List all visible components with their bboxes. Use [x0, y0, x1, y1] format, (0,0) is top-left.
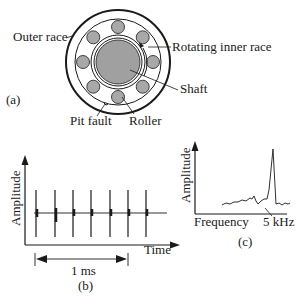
roller: [136, 31, 149, 44]
roller: [147, 56, 160, 69]
roller: [87, 80, 100, 93]
shaft-label: Shaft: [180, 81, 208, 96]
interval-arrow-right-icon: [116, 255, 127, 263]
spectrum-plot: [192, 141, 291, 216]
peak-frequency-label: 5 kHz: [263, 214, 295, 229]
panel-c-tag: (c): [238, 234, 252, 249]
roller: [112, 21, 125, 34]
roller: [87, 31, 100, 44]
panel-c-ylabel: Amplitude: [178, 147, 193, 203]
roller: [136, 80, 149, 93]
panel-b-ylabel: Amplitude: [8, 170, 23, 226]
outer-race-label: Outer race: [13, 29, 68, 44]
roller-label: Roller: [129, 113, 162, 128]
roller: [77, 56, 90, 69]
interval-arrow-left-icon: [36, 255, 47, 263]
panel-c-xlabel: Frequency: [194, 214, 249, 229]
interval-label: 1 ms: [71, 263, 96, 278]
panel-b-tag: (b): [78, 278, 93, 293]
y-axis-arrowhead-icon: [22, 155, 29, 165]
panel-a-tag: (a): [6, 92, 20, 107]
impulse-bursts: [37, 208, 147, 222]
x-axis-arrowhead-icon: [170, 242, 180, 249]
spectrum-line: [222, 149, 290, 205]
pit-fault-label: Pit fault: [70, 113, 112, 128]
panel-b-xlabel: Time: [144, 242, 171, 257]
roller: [112, 91, 125, 104]
bearing-diagram: [66, 10, 170, 114]
rotating-inner-race-label: Rotating inner race: [172, 39, 272, 54]
shaft-circle: [96, 40, 140, 84]
